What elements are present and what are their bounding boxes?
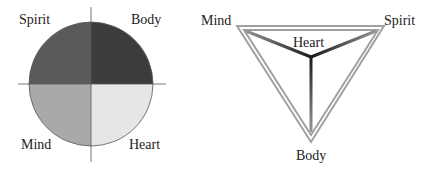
triangle-diagram: Mind Spirit Body Heart	[201, 13, 415, 163]
label-spirit: Spirit	[19, 12, 50, 27]
label-mind: Mind	[21, 137, 51, 152]
label-heart: Heart	[129, 137, 160, 152]
label-body: Body	[131, 12, 161, 27]
label-triangle-heart: Heart	[293, 35, 324, 50]
label-triangle-spirit: Spirit	[384, 13, 415, 28]
circle-diagram: Spirit Body Mind Heart	[18, 7, 166, 162]
diagram-canvas: Spirit Body Mind Heart Mind Spirit Body …	[0, 0, 431, 169]
quadrant-body	[91, 22, 153, 84]
label-triangle-body: Body	[296, 148, 326, 163]
label-triangle-mind: Mind	[201, 13, 231, 28]
quadrant-spirit	[29, 22, 91, 84]
